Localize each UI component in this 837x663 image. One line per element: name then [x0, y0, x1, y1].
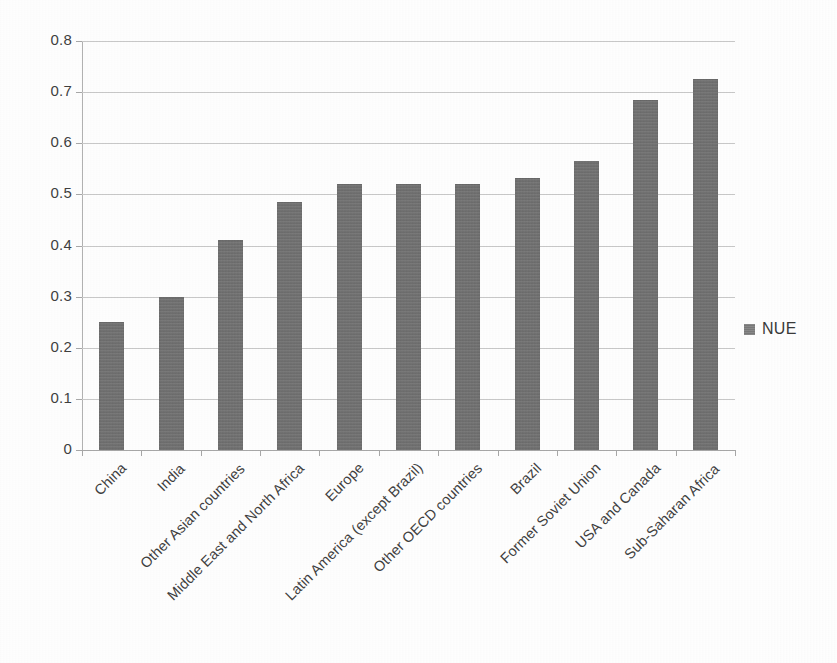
bar [159, 297, 184, 450]
x-axis-tick-label: Other OECD countries [370, 460, 485, 575]
x-axis-tick-label: Former Soviet Union [497, 460, 604, 567]
bar [396, 184, 421, 450]
x-axis-tick-label: China [91, 460, 129, 498]
x-axis-tick-label: India [154, 460, 188, 494]
y-axis-tick [76, 246, 82, 247]
bar [693, 79, 718, 450]
y-axis-tick [76, 194, 82, 195]
y-axis-tick [76, 41, 82, 42]
legend-swatch-nue [744, 324, 755, 335]
y-axis-tick [76, 143, 82, 144]
y-axis-tick-label: 0.6 [51, 133, 72, 150]
bar [574, 161, 599, 450]
y-axis-tick-label: 0.4 [51, 236, 72, 253]
gridline [82, 92, 735, 93]
x-axis-tick-label: Europe [322, 460, 367, 505]
bar [455, 184, 480, 450]
bar [218, 240, 243, 450]
y-axis-tick-label: 0.8 [51, 31, 72, 48]
legend-label-nue: NUE [762, 320, 797, 338]
chart-figure: 00.10.20.30.40.50.60.70.8 ChinaIndiaOthe… [0, 0, 837, 663]
bar [515, 178, 540, 450]
bar [633, 100, 658, 450]
bar [277, 202, 302, 450]
y-axis-tick-label: 0.3 [51, 287, 72, 304]
gridline [82, 41, 735, 42]
x-axis-tick-label: Brazil [507, 460, 544, 497]
y-axis-tick [76, 399, 82, 400]
bar [337, 184, 362, 450]
plot-area [82, 41, 735, 450]
y-axis-tick-label: 0.2 [51, 338, 72, 355]
y-axis-tick [76, 92, 82, 93]
y-axis-tick [76, 348, 82, 349]
chart-legend: NUE [744, 320, 797, 338]
x-axis-labels: ChinaIndiaOther Asian countriesMiddle Ea… [0, 450, 837, 663]
y-axis-tick [76, 297, 82, 298]
x-axis-tick-label: Other Asian countries [137, 460, 248, 571]
y-axis-tick-label: 0.7 [51, 82, 72, 99]
y-axis-tick-label: 0.1 [51, 389, 72, 406]
bar [99, 322, 124, 450]
y-axis-tick-label: 0.5 [51, 184, 72, 201]
